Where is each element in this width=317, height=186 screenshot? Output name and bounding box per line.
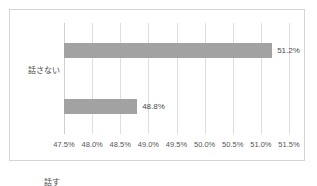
gridline-49.5: [177, 23, 178, 134]
gridline-50.5: [233, 23, 234, 134]
x-tick-label: 50.0%: [194, 140, 215, 149]
x-tick-label: 51.0%: [250, 140, 271, 149]
x-tick-label: 48.0%: [81, 140, 102, 149]
bar: 話さない: [64, 43, 272, 58]
gridline-50.0: [205, 23, 206, 134]
x-tick-label: 49.5%: [166, 140, 187, 149]
bar: 話す: [64, 99, 137, 114]
gridline-47.5: [64, 23, 65, 134]
value-label: 51.2%: [277, 43, 300, 58]
value-label: 48.8%: [142, 99, 165, 114]
gridline-51.5: [289, 23, 290, 134]
x-tick-label: 47.5%: [53, 140, 74, 149]
x-tick-label: 51.5%: [278, 140, 299, 149]
gridline-48.0: [92, 23, 93, 134]
gridline-48.5: [120, 23, 121, 134]
x-tick-label: 49.0%: [138, 140, 159, 149]
gridline-51.0: [261, 23, 262, 134]
gridline-49.0: [148, 23, 149, 134]
x-tick-label: 50.5%: [222, 140, 243, 149]
category-label: 話さない: [28, 63, 60, 78]
x-axis-tick-labels: 47.5%48.0%48.5%49.0%49.5%50.0%50.5%51.0%…: [64, 134, 289, 154]
plot-area: 話さない51.2%話す48.8% 47.5%48.0%48.5%49.0%49.…: [64, 23, 289, 134]
chart-frame: 話さない51.2%話す48.8% 47.5%48.0%48.5%49.0%49.…: [9, 9, 305, 161]
x-tick-label: 48.5%: [110, 140, 131, 149]
